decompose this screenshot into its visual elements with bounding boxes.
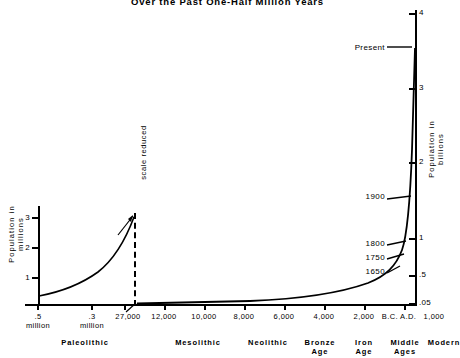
left-x-axis	[25, 304, 137, 306]
scale-reduced-note: scale reduced	[139, 123, 148, 183]
right-y-label-1: 1	[419, 233, 424, 242]
right-y-tick-05	[409, 275, 416, 277]
left-y-axis	[38, 206, 40, 306]
era-neolithic-line1: Neolithic	[248, 338, 288, 347]
era-bronze-line1: Bronze	[305, 338, 336, 347]
annotation-present: Present	[330, 43, 385, 52]
era-middle-line2: Ages	[394, 347, 416, 356]
x-tick-10	[404, 304, 406, 310]
left-y-axis-title-line1: Population in	[7, 205, 16, 263]
right-y-label-05: .5	[419, 270, 426, 279]
x-label-12000: 12,000	[151, 312, 176, 321]
x-tick-7	[284, 304, 286, 310]
annotation-1650: 1650	[330, 267, 385, 276]
era-middle-line1: Middle	[390, 338, 419, 347]
x-label-third-million: .3	[88, 312, 95, 321]
leader-line-1750	[387, 254, 404, 259]
right-y-tick-4	[409, 13, 416, 15]
era-label-bronze-age: Bronze Age	[305, 338, 336, 356]
right-y-axis-title: Population in billions	[427, 109, 445, 189]
era-mesolithic-line1: Mesolithic	[175, 338, 221, 347]
x-label-half-million: .5	[34, 312, 41, 321]
right-y-tick-3	[409, 88, 416, 90]
annotation-1800: 1800	[330, 239, 385, 248]
left-y-tick-3	[32, 217, 39, 219]
x-label-1000: 1,000	[424, 312, 445, 321]
x-label-2000: 2,000	[354, 312, 375, 321]
right-y-axis-title-line1: Population in	[427, 120, 436, 178]
era-label-modern: Modern	[428, 338, 460, 347]
scale-break-divider	[134, 213, 136, 306]
era-label-iron-age: Iron Age	[355, 338, 373, 356]
x-label-6000: 6,000	[274, 312, 295, 321]
x-label-bc-ad: B.C. A.D.	[382, 312, 416, 321]
left-y-axis-title: Population in millions	[7, 199, 25, 269]
era-label-neolithic: Neolithic	[248, 338, 288, 347]
right-y-label-2: 2	[419, 157, 424, 166]
leader-line-1800	[387, 241, 406, 245]
x-tick-4	[164, 304, 166, 310]
left-y-tick-1	[32, 277, 39, 279]
population-curve-right	[137, 48, 415, 304]
era-bronze-line2: Age	[312, 347, 329, 356]
annotation-1750: 1750	[330, 253, 385, 262]
right-y-tick-2	[409, 162, 416, 164]
era-label-paleolithic: Paleolithic	[61, 338, 108, 347]
annotation-1900: 1900	[330, 192, 385, 201]
x-label-4000: 4,000	[314, 312, 335, 321]
left-y-tick-2	[32, 247, 39, 249]
x-tick-8	[324, 304, 326, 310]
x-label-10000: 10,000	[191, 312, 216, 321]
leader-arrow-scale-note	[128, 215, 133, 222]
era-iron-line1: Iron	[355, 338, 373, 347]
right-y-tick-005	[409, 303, 416, 305]
right-y-tick-1	[409, 238, 416, 240]
x-sublabel-half-million: million	[26, 321, 50, 330]
era-modern-line1: Modern	[428, 338, 460, 347]
right-y-label-3: 3	[419, 83, 424, 92]
right-x-axis	[137, 304, 417, 306]
chart-title: Over the Past One-Half Million Years	[0, 0, 455, 7]
x-tick-2	[124, 304, 126, 310]
right-y-axis	[415, 10, 417, 306]
right-y-label-4: 4	[419, 8, 424, 17]
x-label-8000: 8,000	[234, 312, 255, 321]
leader-line-1650	[387, 266, 400, 273]
x-tick-5	[204, 304, 206, 310]
leader-line-1900	[387, 196, 411, 199]
left-y-axis-title-line2: millions	[16, 217, 25, 251]
right-y-label-005: .05	[419, 298, 431, 307]
x-tick-0	[37, 304, 39, 310]
era-label-mesolithic: Mesolithic	[175, 338, 221, 347]
x-tick-6	[244, 304, 246, 310]
leader-line-scale-note	[118, 216, 133, 235]
era-paleolithic-line1: Paleolithic	[61, 338, 108, 347]
population-curve-left	[39, 217, 134, 296]
right-y-axis-title-line2: billions	[436, 133, 445, 165]
x-tick-9	[364, 304, 366, 310]
x-sublabel-third-million: million	[80, 321, 104, 330]
x-label-27000: 27,000	[115, 312, 140, 321]
era-iron-line2: Age	[356, 347, 373, 356]
x-tick-1	[91, 304, 93, 310]
era-label-middle-ages: Middle Ages	[390, 338, 419, 356]
left-y-label-1: 1	[14, 273, 30, 282]
